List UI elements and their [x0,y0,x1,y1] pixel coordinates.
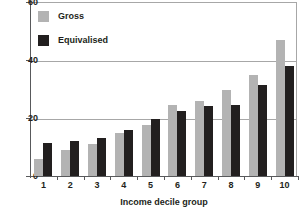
x-tick-label-7: 7 [191,181,218,190]
bar-chart: 60 40 20 0 12345678910 Income decile gro… [0,0,304,216]
bar-gross-decile-9 [249,75,258,177]
bar-group [137,0,164,176]
bar-equivalised-decile-7 [204,106,213,176]
legend-item-equivalised: Equivalised [38,32,108,48]
x-tick-mark [137,176,138,180]
x-tick-label-3: 3 [84,181,111,190]
bar-gross-decile-3 [88,144,97,176]
x-tick-mark [218,176,219,180]
x-tick-mark [298,176,299,180]
x-tick-mark [164,176,165,180]
legend: Gross Equivalised [38,8,108,56]
bar-equivalised-decile-6 [177,111,186,176]
x-tick-label-1: 1 [30,181,57,190]
bar-gross-decile-1 [34,159,43,176]
legend-item-gross: Gross [38,8,108,24]
x-tick-mark [57,176,58,180]
bar-equivalised-decile-10 [285,66,294,176]
x-axis-title: Income decile group [30,198,298,207]
x-tick-label-8: 8 [218,181,245,190]
x-tick-mark [271,176,272,180]
x-tick-label-5: 5 [137,181,164,190]
bar-gross-decile-5 [142,125,151,176]
bar-equivalised-decile-1 [43,143,52,176]
legend-label-gross: Gross [58,12,84,21]
legend-swatch-gross-icon [38,11,49,22]
x-tick-label-9: 9 [244,181,271,190]
x-tick-label-2: 2 [57,181,84,190]
bar-equivalised-decile-5 [151,119,160,176]
x-tick-mark [110,176,111,180]
x-tick-label-4: 4 [110,181,137,190]
bar-group [110,0,137,176]
bar-group [191,0,218,176]
bar-gross-decile-6 [168,105,177,176]
legend-label-equivalised: Equivalised [58,36,108,45]
bar-group [244,0,271,176]
bar-equivalised-decile-8 [231,105,240,176]
bar-gross-decile-4 [115,133,124,177]
x-tick-mark [244,176,245,180]
bar-group [164,0,191,176]
bar-gross-decile-2 [61,150,70,176]
x-tick-mark [84,176,85,180]
bar-equivalised-decile-3 [97,138,106,176]
bar-group [271,0,298,176]
bar-equivalised-decile-2 [70,141,79,176]
bar-gross-decile-7 [195,101,204,176]
legend-swatch-equivalised-icon [38,35,49,46]
x-tick-label-6: 6 [164,181,191,190]
x-tick-mark [191,176,192,180]
bar-gross-decile-8 [222,90,231,176]
bar-group [218,0,245,176]
bar-equivalised-decile-9 [258,85,267,176]
bar-gross-decile-10 [276,40,285,176]
bar-equivalised-decile-4 [124,130,133,176]
x-tick-label-10: 10 [271,181,298,190]
